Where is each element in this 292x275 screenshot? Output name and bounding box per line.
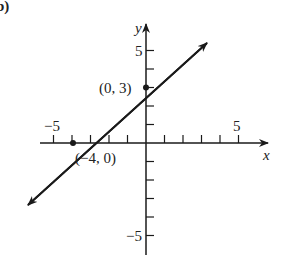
x-tick-label-neg5: −5 bbox=[44, 118, 60, 134]
point-0-3 bbox=[143, 85, 149, 91]
panel-label: b) bbox=[0, 0, 9, 15]
x-axis-label: x bbox=[262, 147, 270, 163]
point-neg4-0 bbox=[70, 140, 76, 146]
y-tick-label-neg5: −5 bbox=[126, 228, 142, 244]
x-tick-label-5: 5 bbox=[233, 118, 241, 134]
coordinate-plane: b) −5 5 5 −5 x y ( bbox=[0, 0, 292, 275]
y-tick-label-5: 5 bbox=[135, 43, 143, 59]
annotation-neg4-0: (−4, 0) bbox=[75, 150, 116, 167]
y-axis-label: y bbox=[133, 20, 142, 36]
annotation-0-3: (0, 3) bbox=[99, 80, 132, 97]
